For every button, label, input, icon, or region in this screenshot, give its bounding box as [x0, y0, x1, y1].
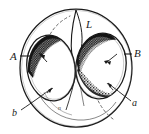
label-B: B: [134, 48, 141, 59]
figure-container: A B L b a n: [0, 0, 149, 134]
label-lower-a: a: [132, 98, 137, 108]
label-bottom-center-mark: n: [58, 105, 61, 111]
label-A: A: [10, 51, 17, 62]
label-lower-b: b: [12, 108, 17, 118]
label-L: L: [86, 19, 92, 30]
right-dark-connector: [78, 60, 79, 71]
figure-drawing: [0, 0, 149, 134]
right-ellipse: [72, 30, 131, 102]
